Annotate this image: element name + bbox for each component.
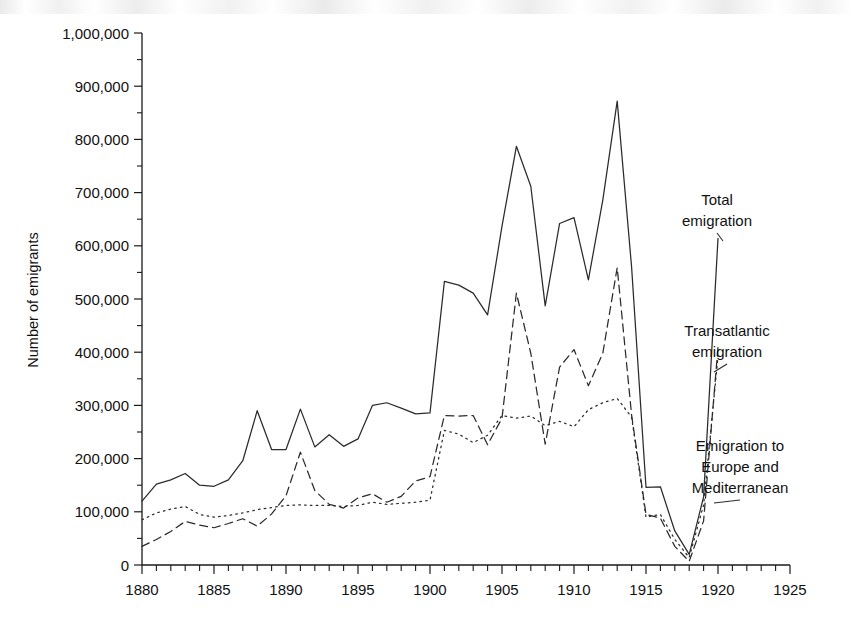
annotation-total-line-1: Total xyxy=(701,191,733,208)
y-tick-label: 1,000,000 xyxy=(62,25,129,42)
annotation-total-line-2: emigration xyxy=(682,212,752,229)
annotation-transatlantic-line-2: emigration xyxy=(692,343,762,360)
y-axis-tick-marks xyxy=(134,33,142,565)
y-tick-label: 900,000 xyxy=(75,78,129,95)
x-tick-label: 1900 xyxy=(413,581,446,598)
x-axis-tick-marks xyxy=(142,565,790,574)
y-tick-label: 500,000 xyxy=(75,291,129,308)
emigration-line-chart: Number of emigrants 0100,000200,000300,0… xyxy=(0,0,852,628)
series-line-1 xyxy=(142,268,718,562)
x-tick-label: 1880 xyxy=(125,581,158,598)
y-tick-label: 400,000 xyxy=(75,344,129,361)
annotation-transatlantic-line-1: Transatlantic xyxy=(684,322,770,339)
series-line-2 xyxy=(142,356,718,557)
y-tick-label: 0 xyxy=(121,557,129,574)
y-axis-title: Number of emigrants xyxy=(25,232,41,367)
x-tick-label: 1925 xyxy=(773,581,806,598)
x-tick-label: 1890 xyxy=(269,581,302,598)
x-tick-label: 1905 xyxy=(485,581,518,598)
x-tick-label: 1920 xyxy=(701,581,734,598)
x-axis-tick-labels: 1880188518901895190019051910191519201925 xyxy=(125,581,806,598)
y-axis-tick-labels: 0100,000200,000300,000400,000500,000600,… xyxy=(62,25,129,574)
chart-canvas: Number of emigrants 0100,000200,000300,0… xyxy=(0,0,852,628)
y-tick-label: 700,000 xyxy=(75,184,129,201)
data-series-group xyxy=(142,101,718,561)
y-tick-label: 600,000 xyxy=(75,237,129,254)
y-tick-label: 300,000 xyxy=(75,397,129,414)
annotation-europe-med-line-1: Emigration to xyxy=(696,437,784,454)
annotation-europe-med-line-2: Europe and xyxy=(701,458,779,475)
y-axis-title-text: Number of emigrants xyxy=(25,232,41,367)
x-tick-label: 1885 xyxy=(197,581,230,598)
y-tick-label: 200,000 xyxy=(75,450,129,467)
y-tick-label: 800,000 xyxy=(75,131,129,148)
x-tick-label: 1895 xyxy=(341,581,374,598)
annotation-europe-med-line-3: Mediterranean xyxy=(692,479,789,496)
series-line-0 xyxy=(142,101,718,554)
x-tick-label: 1915 xyxy=(629,581,662,598)
annotation-europe-mediterranean: Emigration to Europe and Mediterranean xyxy=(692,437,789,496)
y-tick-label: 100,000 xyxy=(75,503,129,520)
x-tick-label: 1910 xyxy=(557,581,590,598)
annotation-total-emigration: Total emigration xyxy=(682,191,752,229)
series-annotations: Total emigration Transatlantic emigratio… xyxy=(682,191,788,503)
annotation-transatlantic-emigration: Transatlantic emigration xyxy=(684,322,770,360)
annotation-leader-2 xyxy=(714,500,740,503)
